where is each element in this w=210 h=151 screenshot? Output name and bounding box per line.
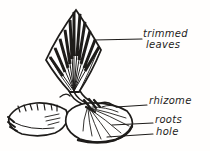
label-hole: hole [156, 127, 179, 137]
label-roots: roots [155, 115, 182, 125]
leader-rhizome [116, 105, 147, 107]
label-rhizome: rhizome [149, 96, 192, 106]
label-trimmed-leaves-line2: leaves [146, 40, 180, 50]
illustration-canvas: trimmed leaves rhizome roots hole [0, 0, 210, 151]
leader-trimmed-leaves [94, 39, 142, 40]
stem [60, 91, 92, 104]
label-trimmed-leaves-line1: trimmed [143, 29, 188, 39]
leaf-fan [46, 10, 101, 92]
